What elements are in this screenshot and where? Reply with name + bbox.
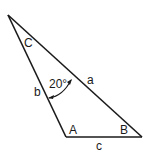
side-label-b: b — [34, 85, 41, 99]
arc-arrowhead-right — [67, 79, 72, 85]
side-label-c: c — [96, 139, 102, 152]
vertex-label-b: B — [120, 123, 128, 137]
side-label-a: a — [87, 73, 94, 87]
vertex-label-c: C — [24, 36, 33, 50]
side-a-line — [8, 15, 142, 137]
triangle-diagram: C a b 20° A B c — [0, 0, 148, 152]
angle-label: 20° — [49, 77, 67, 91]
vertex-label-a: A — [69, 123, 77, 137]
triangle-outline — [8, 15, 142, 137]
arc-arrowhead-left — [48, 95, 54, 99]
side-b-line — [8, 15, 66, 137]
